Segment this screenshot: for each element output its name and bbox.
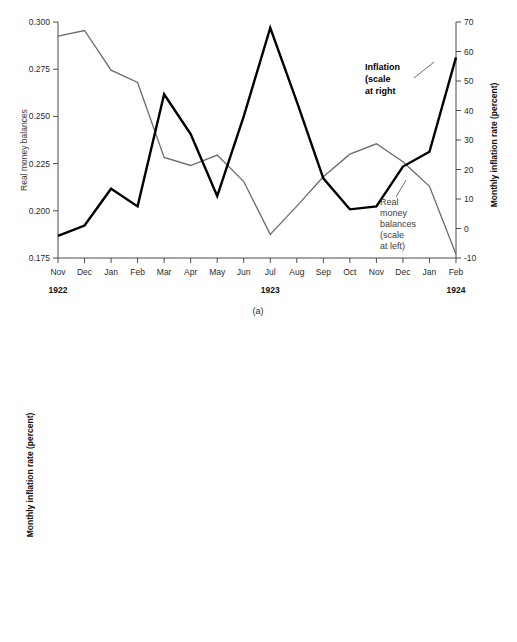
panel-a-month-label: Jan bbox=[423, 267, 437, 277]
panel-a-left-tick-label: 0.175 bbox=[29, 253, 51, 263]
panel-a-left-tick-label: 0.200 bbox=[29, 206, 51, 216]
panel-a-month-label: Apr bbox=[184, 267, 197, 277]
panel-a-left-tick-label: 0.275 bbox=[29, 64, 51, 74]
panel-a-month-label: Feb bbox=[449, 267, 464, 277]
panel-a-month-label: Jun bbox=[237, 267, 251, 277]
rmb-annotation-line-1: Real bbox=[380, 197, 399, 207]
rmb-annotation-line-5: at left) bbox=[380, 241, 405, 251]
panel-a-month-label: Aug bbox=[289, 267, 304, 277]
panel-a-month-label: Jul bbox=[265, 267, 276, 277]
panel-a-right-tick-label: 0 bbox=[464, 224, 469, 234]
panel-a-right-tick-label: 40 bbox=[464, 106, 474, 116]
panel-a-month-label: Jan bbox=[104, 267, 118, 277]
panel-a-right-tick-label: 60 bbox=[464, 47, 474, 57]
panel-a-month-label: Nov bbox=[50, 267, 66, 277]
panel-a-line-chart: 0.1750.2000.2250.2500.2750.300-100102030… bbox=[0, 0, 517, 320]
panel-a-year-label: 1924 bbox=[447, 285, 466, 295]
panel-b-y-axis-title: Monthly inflation rate (percent) bbox=[25, 412, 35, 537]
inflation-annotation-line-1: Inflation bbox=[365, 62, 400, 72]
rmb-annotation-line-4: (scale bbox=[380, 230, 404, 240]
panel-a-left-axis-title: Real money balances bbox=[19, 109, 29, 191]
panel-a-right-tick-label: -10 bbox=[464, 253, 477, 263]
panel-a-month-label: Sep bbox=[316, 267, 331, 277]
rmb-annotation-line-2: money bbox=[380, 208, 408, 218]
panel-a-month-label: Oct bbox=[343, 267, 357, 277]
inflation-annotation-leader bbox=[414, 62, 434, 78]
panel-a-month-label: Mar bbox=[157, 267, 172, 277]
panel-a-year-label: 1923 bbox=[261, 285, 280, 295]
panel-a-right-tick-label: 70 bbox=[464, 17, 474, 27]
panel-a-month-label: May bbox=[209, 267, 226, 277]
inflation-annotation-line-3: at right bbox=[365, 86, 396, 96]
panel-a-svg: 0.1750.2000.2250.2500.2750.300-100102030… bbox=[0, 0, 517, 320]
figure-page: 0.1750.2000.2250.2500.2750.300-100102030… bbox=[0, 0, 517, 642]
panel-a-right-axis-title: Monthly inflation rate (percent) bbox=[489, 82, 499, 207]
panel-a-caption: (a) bbox=[253, 306, 264, 316]
panel-a-left-tick-label: 0.300 bbox=[29, 17, 51, 27]
rmb-annotation-line-3: balances bbox=[380, 219, 417, 229]
panel-a-left-tick-label: 0.250 bbox=[29, 111, 51, 121]
panel-a-month-label: Dec bbox=[77, 267, 93, 277]
panel-a-month-label: Dec bbox=[395, 267, 411, 277]
panel-a-left-tick-label: 0.225 bbox=[29, 159, 51, 169]
panel-b-svg: -100102030405060700.1750.2000.2250.2500.… bbox=[0, 320, 517, 642]
panel-a-right-tick-label: 10 bbox=[464, 194, 474, 204]
panel-a-right-tick-label: 30 bbox=[464, 135, 474, 145]
inflation-annotation-line-2: (scale bbox=[365, 74, 391, 84]
panel-a-year-label: 1922 bbox=[49, 285, 68, 295]
panel-a-right-tick-label: 20 bbox=[464, 165, 474, 175]
inflation-annotation: Inflation (scale at right bbox=[365, 62, 434, 96]
panel-b-scatter-chart: -100102030405060700.1750.2000.2250.2500.… bbox=[0, 320, 517, 642]
panel-a-month-label: Nov bbox=[369, 267, 385, 277]
rmb-annotation-leader bbox=[396, 180, 406, 197]
panel-a-month-label: Feb bbox=[130, 267, 145, 277]
panel-a-right-tick-label: 50 bbox=[464, 76, 474, 86]
